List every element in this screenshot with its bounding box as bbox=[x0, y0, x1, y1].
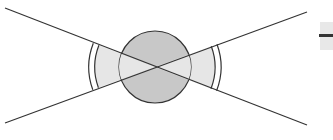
ascending-line bbox=[5, 12, 307, 123]
left-outer-arc bbox=[89, 43, 94, 90]
descending-line bbox=[5, 8, 307, 125]
double-cone-diagram bbox=[0, 0, 333, 140]
fragment-bar bbox=[319, 34, 333, 37]
right-outer-arc bbox=[217, 44, 221, 91]
edge-fragment bbox=[318, 22, 333, 52]
